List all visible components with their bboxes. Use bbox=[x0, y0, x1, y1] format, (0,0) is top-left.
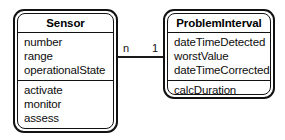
operation-item: calcDuration bbox=[168, 83, 270, 95]
attributes-compartment-problem-interval: dateTimeDetected worstValue dateTimeCorr… bbox=[168, 33, 270, 81]
class-name-sensor: Sensor bbox=[18, 14, 113, 33]
attribute-item: range bbox=[18, 49, 113, 63]
class-name-problem-interval: ProblemInterval bbox=[168, 14, 270, 33]
operations-compartment-sensor: activate monitor assess bbox=[18, 81, 113, 128]
class-box-inner: ProblemInterval dateTimeDetected worstVa… bbox=[167, 13, 271, 95]
target-multiplicity-label: 1 bbox=[152, 43, 158, 54]
operation-item: monitor bbox=[18, 97, 113, 111]
attribute-item: worstValue bbox=[168, 49, 270, 63]
class-box-problem-interval[interactable]: ProblemInterval dateTimeDetected worstVa… bbox=[163, 9, 275, 99]
class-box-inner: Sensor number range operationalState act… bbox=[17, 13, 114, 129]
attribute-item: number bbox=[18, 35, 113, 49]
operation-item: activate bbox=[18, 83, 113, 97]
operation-item: assess bbox=[18, 111, 113, 125]
attribute-item: dateTimeDetected bbox=[168, 35, 270, 49]
attributes-compartment-sensor: number range operationalState bbox=[18, 33, 113, 81]
uml-class-diagram: n 1 Sensor number range operationalState… bbox=[0, 0, 285, 140]
attribute-item: operationalState bbox=[18, 63, 113, 77]
source-multiplicity-label: n bbox=[123, 43, 129, 54]
association-line bbox=[117, 56, 164, 58]
operations-compartment-problem-interval: calcDuration bbox=[168, 81, 270, 95]
class-box-sensor[interactable]: Sensor number range operationalState act… bbox=[13, 9, 118, 133]
attribute-item: dateTimeCorrected bbox=[168, 63, 270, 77]
